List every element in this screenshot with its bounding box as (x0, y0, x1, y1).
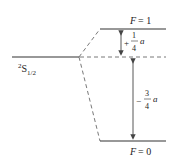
svg-text:4: 4 (145, 102, 149, 111)
svg-text:3: 3 (145, 89, 149, 98)
connector-to-lower (79, 57, 100, 141)
lower-shift-label: − 3 4 a (136, 89, 158, 111)
svg-text:−: − (136, 96, 141, 106)
upper-shift-label: + 1 4 a (124, 31, 145, 53)
svg-text:+: + (124, 38, 129, 48)
level-F0-label: F= 0 (129, 146, 151, 157)
hyperfine-diagram: F= 1 F= 0 2S1/2 + 1 4 a − 3 4 a (0, 0, 176, 167)
state-label: 2S1/2 (18, 62, 37, 77)
connector-to-upper (79, 29, 100, 57)
svg-text:4: 4 (132, 44, 136, 53)
level-F1-label: F= 1 (129, 15, 151, 26)
svg-text:1: 1 (132, 31, 136, 40)
svg-text:a: a (153, 94, 158, 104)
svg-text:a: a (140, 36, 145, 46)
